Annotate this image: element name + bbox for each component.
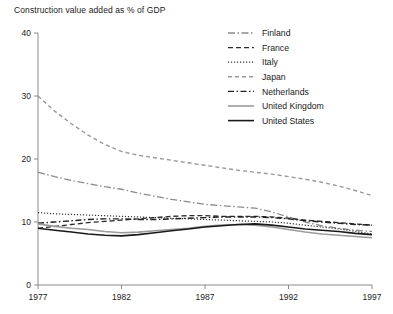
legend-label-united-kingdom[interactable]: United Kingdom [262, 101, 324, 111]
series-lines [38, 96, 372, 238]
y-axis-tick-label: 0 [26, 280, 31, 290]
chart-container: Construction value added as % of GDP 010… [0, 0, 393, 314]
legend-label-netherlands[interactable]: Netherlands [262, 87, 310, 97]
legend-label-united-states[interactable]: United States [262, 116, 315, 126]
chart-legend[interactable]: FinlandFranceItalyJapanNetherlandsUnited… [228, 28, 324, 126]
x-axis-tick-label: 1982 [112, 292, 131, 302]
y-axis-tick-label: 30 [22, 91, 32, 101]
legend-label-finland[interactable]: Finland [262, 28, 291, 38]
y-axis-tick-label: 40 [22, 28, 32, 38]
x-axis-tick-label: 1992 [279, 292, 298, 302]
x-axis-tick-label: 1997 [363, 292, 382, 302]
x-axis-tick-label: 1987 [196, 292, 215, 302]
line-chart-plot: 01020304019771982198719921997 FinlandFra… [0, 0, 393, 314]
x-axis-tick-label: 1977 [29, 292, 48, 302]
y-axis-tick-label: 20 [22, 154, 32, 164]
legend-label-france[interactable]: France [262, 43, 289, 53]
legend-label-japan[interactable]: Japan [262, 72, 286, 82]
legend-label-italy[interactable]: Italy [262, 57, 279, 67]
y-axis-tick-label: 10 [22, 217, 32, 227]
